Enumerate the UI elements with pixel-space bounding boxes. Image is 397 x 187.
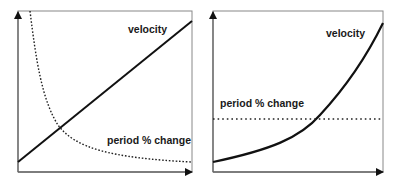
panel-linear: velocity period % change [18, 11, 192, 172]
panel-exponential: velocity period % change [213, 11, 383, 172]
velocity-curve [213, 23, 383, 162]
period-change-label: period % change [107, 134, 191, 146]
period-change-label: period % change [220, 97, 304, 109]
velocity-label: velocity [326, 27, 365, 39]
velocity-label: velocity [128, 23, 167, 35]
diagram-canvas: velocity period % change velocity period… [0, 0, 397, 187]
